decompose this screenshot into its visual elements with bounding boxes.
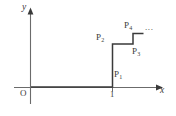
point-label-p2: P2 bbox=[96, 33, 104, 43]
y-axis bbox=[28, 8, 34, 105]
y-axis-arrowhead bbox=[28, 8, 34, 15]
point-label-p1-subscript: 1 bbox=[119, 74, 122, 80]
point-label-p1: P1 bbox=[114, 70, 122, 80]
origin-label: O bbox=[20, 89, 27, 98]
staircase-path bbox=[31, 34, 144, 88]
point-label-p3: P3 bbox=[132, 47, 140, 57]
point-label-p2-subscript: 2 bbox=[101, 37, 104, 43]
x-tick-label-1: 1 bbox=[110, 90, 114, 99]
y-axis-label: y bbox=[22, 3, 26, 13]
point-label-p3-subscript: 3 bbox=[137, 51, 140, 57]
point-label-p4: P4 bbox=[124, 21, 132, 31]
point-label-p4-subscript: 4 bbox=[129, 25, 132, 31]
step-function-figure: y x O 1 P1 P2 P3 P4 ... bbox=[0, 0, 176, 116]
x-axis-label: x bbox=[160, 86, 164, 96]
continuation-ellipsis: ... bbox=[145, 23, 154, 32]
figure-canvas bbox=[0, 0, 176, 116]
